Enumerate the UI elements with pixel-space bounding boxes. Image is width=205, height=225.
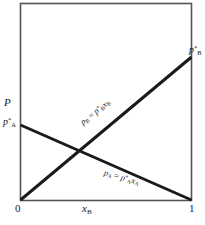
x-tick-label-right: 1 — [189, 203, 195, 214]
right-intercept-label: p*B — [189, 45, 202, 55]
plot-canvas — [0, 0, 205, 225]
raoults-law-figure: P p*A p*B 0 1 xB pB = p*BxB pA = p*AxA — [0, 0, 205, 225]
x-tick-label-left: 0 — [15, 203, 21, 214]
x-axis-label: xB — [82, 203, 92, 214]
left-intercept-label: p*A — [3, 117, 16, 127]
y-axis-label: P — [4, 97, 11, 108]
